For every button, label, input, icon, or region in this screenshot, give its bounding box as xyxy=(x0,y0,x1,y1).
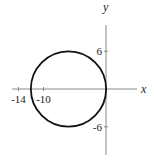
x-tick-label: -14 xyxy=(11,93,26,105)
y-axis-label: y xyxy=(102,0,109,14)
x-tick-label: -10 xyxy=(36,93,51,105)
y-tick-label: -6 xyxy=(93,121,103,133)
circle-graph: -14-10 6-6 x y xyxy=(0,0,154,160)
x-axis-label: x xyxy=(140,82,147,96)
y-tick-label: 6 xyxy=(97,45,103,57)
